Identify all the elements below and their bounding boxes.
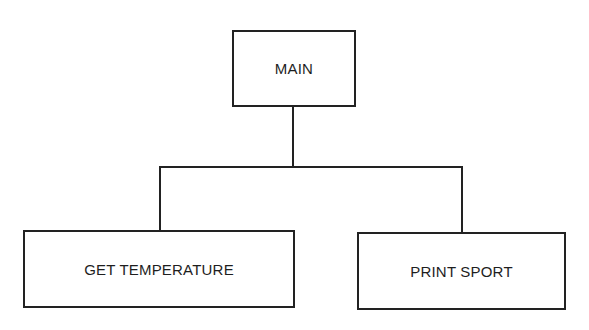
connector-stem bbox=[292, 106, 294, 168]
node-get-temperature: GET TEMPERATURE bbox=[23, 230, 295, 308]
node-main: MAIN bbox=[232, 30, 356, 107]
connector-drop-right bbox=[461, 166, 463, 233]
connector-crossbar bbox=[159, 166, 463, 168]
node-print-sport-label: PRINT SPORT bbox=[410, 263, 513, 280]
connector-drop-left bbox=[159, 166, 161, 231]
node-get-temperature-label: GET TEMPERATURE bbox=[84, 261, 234, 278]
node-print-sport: PRINT SPORT bbox=[357, 232, 566, 310]
node-main-label: MAIN bbox=[275, 60, 313, 77]
